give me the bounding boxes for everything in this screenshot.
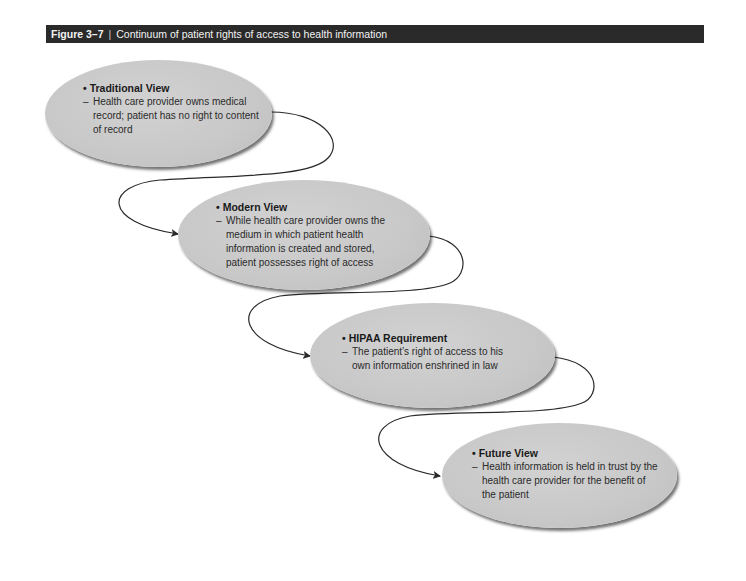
node-description: –The patient’s right of access to his ow…	[342, 345, 522, 373]
node-heading: •Traditional View	[83, 81, 263, 95]
node-description: –While health care provider owns the med…	[216, 214, 406, 270]
bullet-icon: •	[216, 201, 220, 213]
bullet-icon: •	[83, 82, 87, 94]
node-heading: •HIPAA Requirement	[342, 331, 522, 345]
node-modern-view-text: •Modern View –While health care provider…	[216, 200, 406, 270]
node-hipaa-requirement-text: •HIPAA Requirement –The patient’s right …	[342, 331, 522, 373]
dash-icon: –	[83, 95, 93, 137]
node-description: –Health information is held in trust by …	[472, 460, 662, 502]
bullet-icon: •	[342, 332, 346, 344]
node-traditional-view-text: •Traditional View –Health care provider …	[83, 81, 263, 137]
node-description: –Health care provider owns medical recor…	[83, 95, 263, 137]
node-heading: •Future View	[472, 446, 662, 460]
dash-icon: –	[342, 345, 352, 373]
dash-icon: –	[216, 214, 226, 270]
dash-icon: –	[472, 460, 482, 502]
bullet-icon: •	[472, 447, 476, 459]
node-heading: •Modern View	[216, 200, 406, 214]
node-future-view-text: •Future View –Health information is held…	[472, 446, 662, 502]
